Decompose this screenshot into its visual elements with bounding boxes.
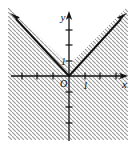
y-tick-label-one: 1 bbox=[61, 56, 66, 67]
y-axis-label: y bbox=[60, 11, 66, 23]
coordinate-plane-svg: y x O 1 1 bbox=[0, 0, 135, 150]
x-tick-label-one: 1 bbox=[83, 80, 88, 91]
x-axis-label: x bbox=[121, 78, 127, 90]
graph-figure: y x O 1 1 bbox=[0, 0, 135, 150]
origin-label: O bbox=[60, 78, 67, 89]
